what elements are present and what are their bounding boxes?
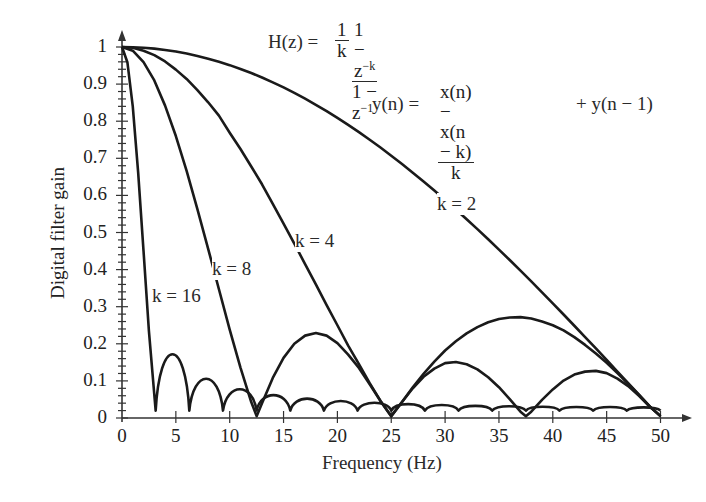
series-label: k = 8 [212,258,251,280]
x-tick-label: 10 [215,425,245,447]
y-tick-label: 0.5 [67,221,107,243]
y-tick-label: 0.4 [67,258,107,280]
y-tick-label: 0 [67,406,107,428]
y-tick-label: 1 [67,35,107,57]
series-label: k = 4 [295,230,334,252]
formula-lhs: H(z) = [268,31,318,53]
x-tick-label: 45 [592,425,622,447]
x-tick-label: 5 [161,425,191,447]
equation-rhs: + y(n − 1) [576,93,653,115]
y-tick-label: 0.2 [67,332,107,354]
y-tick-label: 0.1 [67,369,107,391]
x-tick-label: 0 [107,425,137,447]
y-tick-label: 0.8 [67,109,107,131]
x-tick-label: 30 [430,425,460,447]
x-axis-arrow-icon [682,414,692,422]
series-label: k = 2 [437,193,476,215]
formula-coef: 1 k [335,20,349,61]
series-label: k = 16 [152,285,201,307]
y-axis-arrow-icon [118,30,126,41]
x-tick-label: 20 [322,425,352,447]
y-tick-label: 0.9 [67,72,107,94]
y-tick-label: 0.6 [67,183,107,205]
equation-fraction: x(n) − x(n − k) k [438,82,474,183]
y-tick-label: 0.3 [67,295,107,317]
x-tick-label: 15 [269,425,299,447]
equation-lhs: y(n) = [372,93,419,115]
y-tick-label: 0.7 [67,146,107,168]
x-tick-label: 25 [376,425,406,447]
y-axis-label: Digital filter gain [47,153,69,313]
x-axis-label: Frequency (Hz) [322,452,442,474]
x-tick-label: 35 [484,425,514,447]
x-tick-label: 50 [646,425,676,447]
x-tick-label: 40 [538,425,568,447]
